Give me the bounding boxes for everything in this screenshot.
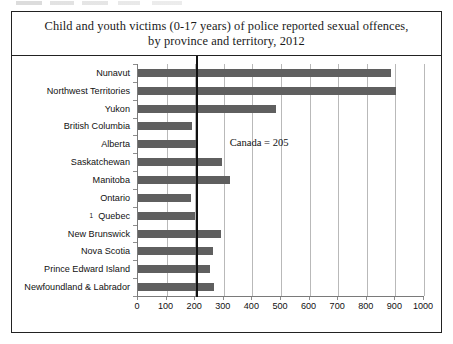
gridline [424,64,425,296]
bar [138,265,210,273]
bar [138,158,222,166]
category-axis: NunavutNorthwest TerritoriesYukonBritish… [12,64,137,296]
bars-canvas [137,64,424,297]
value-tick [166,297,167,300]
category-label: Saskatchewan [12,153,137,171]
bar-row [138,278,424,296]
plot-area: NunavutNorthwest TerritoriesYukonBritish… [12,56,441,332]
category-label: 1Quebec [12,207,137,225]
category-label: Manitoba [12,171,137,189]
bar-row [138,242,424,260]
bar [138,247,213,255]
bar [138,194,191,202]
category-label: Prince Edward Island [12,260,137,278]
bar-row [138,118,424,136]
value-tick [423,297,424,300]
value-tick [223,297,224,300]
value-tick [194,297,195,300]
bar-row [138,260,424,278]
value-tick [337,297,338,300]
bar [138,69,391,77]
page-title: Child and youth victims (0-17 years) of … [45,19,409,49]
bar-series [138,64,424,296]
category-label: Ontario [12,189,137,207]
canada-reference-line [196,56,198,297]
bar-row [138,82,424,100]
bar-row [138,207,424,225]
bar-row [138,225,424,243]
value-axis-label: 800 [358,301,373,311]
category-label: Nova Scotia [12,242,137,260]
bar [138,105,276,113]
value-axis-label: 900 [387,301,402,311]
value-tick [309,297,310,300]
bar [138,283,214,291]
bar [138,122,192,130]
bar-row [138,64,424,82]
bar [138,140,196,148]
category-label-text: Quebec [98,211,130,221]
canada-annotation-label: Canada = 205 [230,137,289,148]
bar-row [138,100,424,118]
value-tick [394,297,395,300]
footnote-marker: 1 [90,212,94,219]
value-axis-label: 1000 [413,301,433,311]
value-axis-label: 300 [215,301,230,311]
bar-row [138,171,424,189]
value-axis-label: 200 [187,301,202,311]
bar [138,230,221,238]
value-axis: 01002003004005006007008009001000 [137,297,423,317]
bar-row [138,189,424,207]
bar [138,87,396,95]
value-axis-label: 600 [301,301,316,311]
value-axis-label: 400 [244,301,259,311]
value-axis-label: 100 [158,301,173,311]
chart-figure: Child and youth victims (0-17 years) of … [11,11,442,333]
value-axis-label: 500 [272,301,287,311]
bar [138,176,230,184]
scan-artifact [16,1,216,5]
value-axis-label: 0 [134,301,139,311]
category-label: New Brunswick [12,225,137,243]
category-label: British Columbia [12,118,137,136]
chart-title-box: Child and youth victims (0-17 years) of … [12,12,441,56]
category-label: Yukon [12,100,137,118]
category-label: Northwest Territories [12,82,137,100]
category-label: Newfoundland & Labrador [12,278,137,296]
value-tick [366,297,367,300]
category-label: Alberta [12,135,137,153]
value-axis-label: 700 [330,301,345,311]
bar [138,212,195,220]
value-tick [137,297,138,300]
value-tick [251,297,252,300]
category-label: Nunavut [12,64,137,82]
bar-row [138,153,424,171]
value-tick [280,297,281,300]
